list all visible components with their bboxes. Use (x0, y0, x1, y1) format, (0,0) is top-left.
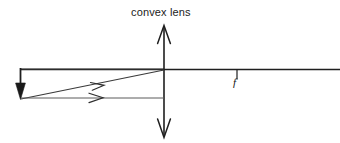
focal-point-label: f (233, 76, 236, 88)
lens-label: convex lens (131, 5, 191, 19)
convex-lens-ray-diagram: convex lens f (0, 0, 340, 143)
ray-through-centre-arrowhead (91, 83, 105, 91)
ray-diagram-canvas (0, 0, 340, 143)
object-arrow (16, 68, 26, 100)
object-arrowhead (16, 83, 26, 100)
lens-double-arrow (158, 26, 171, 138)
